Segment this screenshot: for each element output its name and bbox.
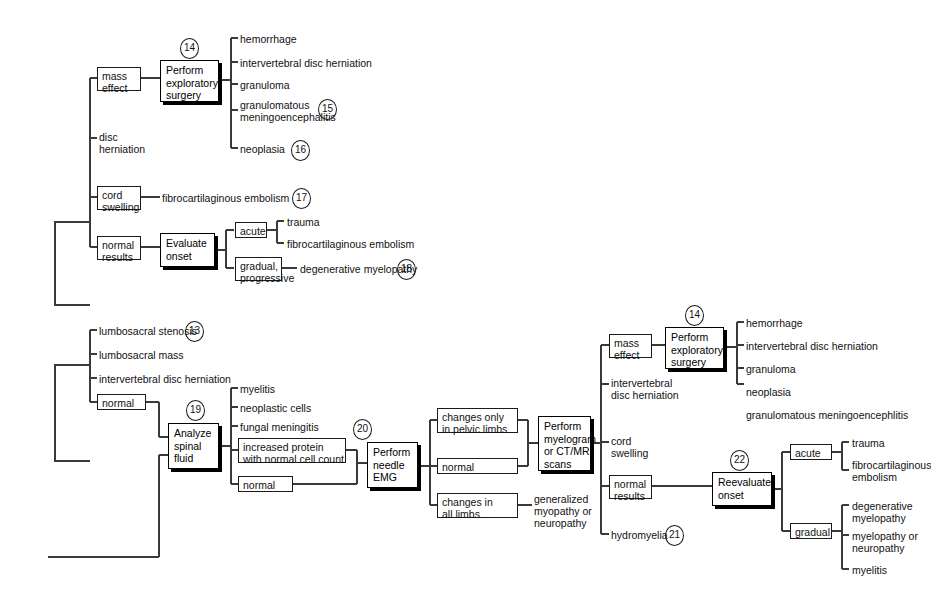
step-number-19: 19 [186, 400, 205, 421]
myelogram-result-cord-swelling: cord swelling [611, 435, 648, 459]
reevaluate-outcome-trauma: trauma [852, 437, 885, 449]
action-reevaluate-onset[interactable]: Reevaluate onset [712, 472, 772, 506]
reevaluate-branch-acute[interactable]: acute [790, 444, 832, 460]
csf-result-neoplastic-cells: neoplastic cells [240, 402, 311, 414]
outcome-granuloma: granuloma [240, 79, 290, 91]
step-number-22: 22 [730, 450, 749, 471]
myelogram-result-disc-herniation: intervertebral disc herniation [611, 377, 679, 401]
step-number-14-second: 14 [685, 305, 704, 326]
node-mass-effect[interactable]: mass effect [97, 67, 141, 91]
step-number-21: 21 [665, 525, 684, 546]
outcome-neoplasia: neoplasia [240, 143, 285, 155]
node-gradual-progressive[interactable]: gradual, progressive [235, 257, 282, 281]
surgery2-outcome-neoplasia: neoplasia [746, 386, 791, 398]
surgery2-outcome-hemorrhage: hemorrhage [746, 317, 803, 329]
node-lumbosacral-mass: lumbosacral mass [99, 349, 184, 361]
csf-result-normal[interactable]: normal [238, 476, 293, 492]
action-perform-exploratory-surgery[interactable]: Perform exploratory surgery [160, 60, 219, 102]
action-perform-myelogram[interactable]: Perform myelogram or CT/MRI scans [538, 416, 591, 471]
step-number-15: 15 [318, 99, 337, 120]
step-number-16: 16 [291, 140, 310, 161]
reevaluate-branch-gradual[interactable]: gradual [790, 523, 832, 539]
node-normal[interactable]: normal [97, 394, 146, 410]
reevaluate-outcome-degenerative-myelopathy: degenerative myelopathy [852, 500, 913, 524]
node-cord-swelling[interactable]: cord swelling [97, 186, 141, 210]
outcome-trauma: trauma [287, 216, 320, 228]
myelogram-result-normal-results[interactable]: normal results [609, 475, 652, 499]
csf-result-myelitis: myelitis [240, 383, 275, 395]
outcome-hemorrhage: hemorrhage [240, 33, 297, 45]
reevaluate-outcome-myelopathy-neuropathy: myelopathy or neuropathy [852, 530, 918, 554]
step-number-14: 14 [180, 38, 199, 59]
action-perform-needle-emg[interactable]: Perform needle EMG [367, 442, 418, 488]
surgery2-outcome-granuloma: granuloma [746, 363, 796, 375]
myelogram-result-mass-effect[interactable]: mass effect [609, 334, 652, 358]
csf-result-fungal-meningitis: fungal meningitis [240, 421, 319, 433]
surgery2-outcome-granulomatous-meningoencephlitis: granulomatous meningoencephlitis [746, 409, 908, 421]
node-acute[interactable]: acute [235, 222, 267, 238]
node-intervertebral-disc-herniation: intervertebral disc herniation [99, 373, 231, 385]
emg-result-pelvic-limbs[interactable]: changes only in pelvic limbs [437, 408, 518, 433]
emg-result-normal[interactable]: normal [437, 458, 518, 474]
csf-result-increased-protein[interactable]: increased protein with normal cell count [238, 438, 346, 463]
node-lumbosacral-stenosis: lumbosacral stenosis [99, 325, 197, 337]
step-number-13: 13 [185, 321, 204, 342]
outcome-acute-fce: fibrocartilaginous embolism [287, 238, 414, 250]
action-evaluate-onset[interactable]: Evaluate onset [160, 233, 215, 267]
outcome-fibrocartilaginous-embolism: fibrocartilaginous embolism [162, 192, 289, 204]
reevaluate-outcome-fce: fibrocartilaginous embolism [852, 459, 931, 483]
step-number-18: 18 [397, 259, 416, 280]
step-number-20: 20 [353, 419, 372, 440]
node-normal-results[interactable]: normal results [97, 236, 141, 260]
myelogram-result-hydromyelia: hydromyelia [611, 529, 668, 541]
outcome-generalized-myopathy-neuropathy: generalized myopathy or neuropathy [534, 493, 592, 529]
flowchart-canvas: mass effect disc herniation cord swellin… [0, 0, 931, 610]
surgery2-outcome-disc-herniation: intervertebral disc herniation [746, 340, 878, 352]
emg-result-all-limbs[interactable]: changes in all limbs [437, 493, 518, 518]
action-perform-exploratory-surgery-2[interactable]: Perform exploratory surgery [665, 327, 724, 369]
outcome-intervertebral-disc-herniation: intervertebral disc herniation [240, 57, 372, 69]
node-disc-herniation: disc herniation [99, 131, 145, 155]
action-analyze-spinal-fluid[interactable]: Analyze spinal fluid [168, 423, 219, 469]
reevaluate-outcome-myelitis: myelitis [852, 564, 887, 576]
step-number-17: 17 [292, 188, 311, 209]
